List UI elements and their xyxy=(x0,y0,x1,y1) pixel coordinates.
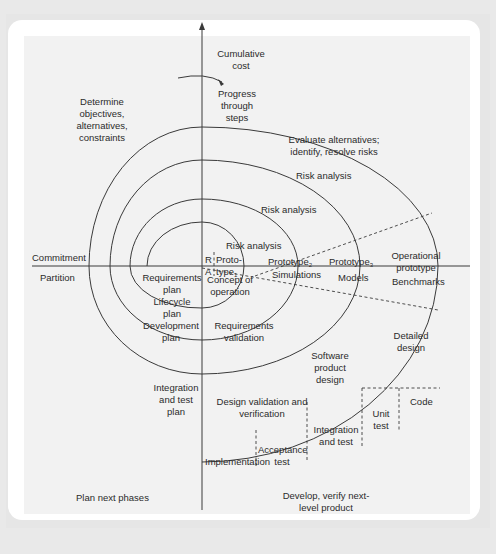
quadrant-develop: Develop, verify next-level product xyxy=(280,490,372,514)
ra-r: R xyxy=(205,254,212,266)
progress-label: Progress through steps xyxy=(212,88,262,124)
simulations-label: Simulations xyxy=(272,269,321,281)
detailed-design: Detailed design xyxy=(388,330,434,354)
risk-analysis-4: Risk analysis xyxy=(296,170,351,182)
prototype-3-text: Prototype xyxy=(329,256,370,267)
quadrant-evaluate: Evaluate alternatives; identify, resolve… xyxy=(276,134,392,158)
commitment-label: Commitment xyxy=(32,252,86,264)
benchmarks-label: Benchmarks xyxy=(392,276,445,288)
quadrant-plan: Plan next phases xyxy=(76,492,149,504)
development-plan: Development plan xyxy=(140,320,202,344)
lifecycle-plan: Lifecycle plan xyxy=(150,296,194,320)
progress-arrow-icon xyxy=(178,76,222,82)
risk-analysis-2: Risk analysis xyxy=(226,240,281,252)
cumulative-cost-label: Cumulative cost xyxy=(212,48,270,72)
code-label: Code xyxy=(410,396,433,408)
prototype-1-line1: Proto- xyxy=(216,254,242,265)
prototype-2-text: Prototype xyxy=(268,256,309,267)
risk-analysis-3: Risk analysis xyxy=(261,204,316,216)
software-product-design: Software product design xyxy=(305,350,355,386)
requirements-plan: Requirements plan xyxy=(142,272,202,296)
integration-and-test: Integration and test xyxy=(310,424,362,448)
requirements-validation: Requirements validation xyxy=(210,320,278,344)
quadrant-objectives: Determine objectives, alternatives, cons… xyxy=(62,96,142,144)
axis-arrow-icon xyxy=(199,22,205,30)
prototype-2-sub: 2 xyxy=(309,262,312,268)
prototype-3: Prototype3 xyxy=(329,256,373,271)
integration-test-plan: Integration and test plan xyxy=(150,382,202,418)
unit-test: Unit test xyxy=(368,408,394,432)
prototype-3-sub: 3 xyxy=(370,262,373,268)
concept-of-operation: Concept of operation xyxy=(204,274,256,298)
design-validation: Design validation and verification xyxy=(210,396,314,420)
implementation: Implementation xyxy=(205,456,255,468)
operational-prototype: Operational prototype xyxy=(386,250,446,274)
partition-label: Partition xyxy=(40,272,75,284)
models-label: Models xyxy=(338,272,369,284)
